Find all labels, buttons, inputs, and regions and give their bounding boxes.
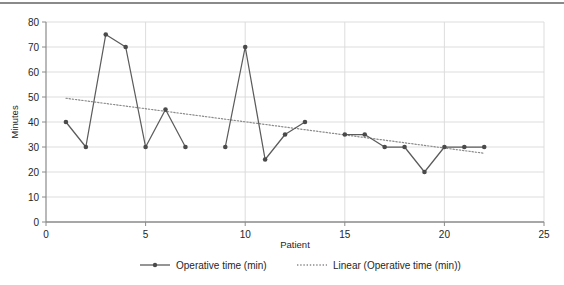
data-point xyxy=(462,145,467,150)
data-point xyxy=(382,145,387,150)
data-point xyxy=(163,107,168,112)
data-point xyxy=(482,145,487,150)
data-point xyxy=(243,45,248,50)
line-chart: 01020304050607080 0510152025 Minutes Pat… xyxy=(0,0,564,285)
data-point xyxy=(362,132,367,137)
data-point xyxy=(103,32,108,37)
data-point xyxy=(442,145,447,150)
y-tick-label: 70 xyxy=(28,42,40,53)
x-tick-label: 10 xyxy=(240,229,252,240)
y-tick-label: 30 xyxy=(28,142,40,153)
data-point xyxy=(183,145,188,150)
data-point xyxy=(64,120,69,125)
y-tick-label: 20 xyxy=(28,167,40,178)
legend-label-linear-trend: Linear (Operative time (min)) xyxy=(333,260,461,271)
y-tick-label: 40 xyxy=(28,117,40,128)
legend-marker-operative-time xyxy=(153,263,157,267)
top-rule xyxy=(0,2,564,4)
x-tick-label: 25 xyxy=(538,229,550,240)
y-axis-title: Minutes xyxy=(9,105,20,139)
chart-container: 01020304050607080 0510152025 Minutes Pat… xyxy=(0,0,564,285)
y-tick-label: 10 xyxy=(28,192,40,203)
x-tick-label: 15 xyxy=(339,229,351,240)
data-point xyxy=(422,170,427,175)
data-point xyxy=(263,157,268,162)
y-axis-tick-labels: 01020304050607080 xyxy=(28,17,40,228)
data-point xyxy=(283,132,288,137)
data-point xyxy=(303,120,308,125)
y-tick-label: 0 xyxy=(33,217,39,228)
y-tick-label: 80 xyxy=(28,17,40,28)
data-point xyxy=(343,132,348,137)
data-point xyxy=(223,145,228,150)
y-tick-label: 60 xyxy=(28,67,40,78)
x-tick-label: 5 xyxy=(143,229,149,240)
data-point xyxy=(143,145,148,150)
data-point xyxy=(123,45,128,50)
data-point xyxy=(84,145,89,150)
legend-label-operative-time: Operative time (min) xyxy=(176,260,267,271)
y-tick-label: 50 xyxy=(28,92,40,103)
chart-legend: Operative time (min) Linear (Operative t… xyxy=(140,260,461,271)
x-axis-title: Patient xyxy=(280,239,310,250)
x-tick-label: 0 xyxy=(43,229,49,240)
data-point xyxy=(402,145,407,150)
x-tick-label: 20 xyxy=(439,229,451,240)
